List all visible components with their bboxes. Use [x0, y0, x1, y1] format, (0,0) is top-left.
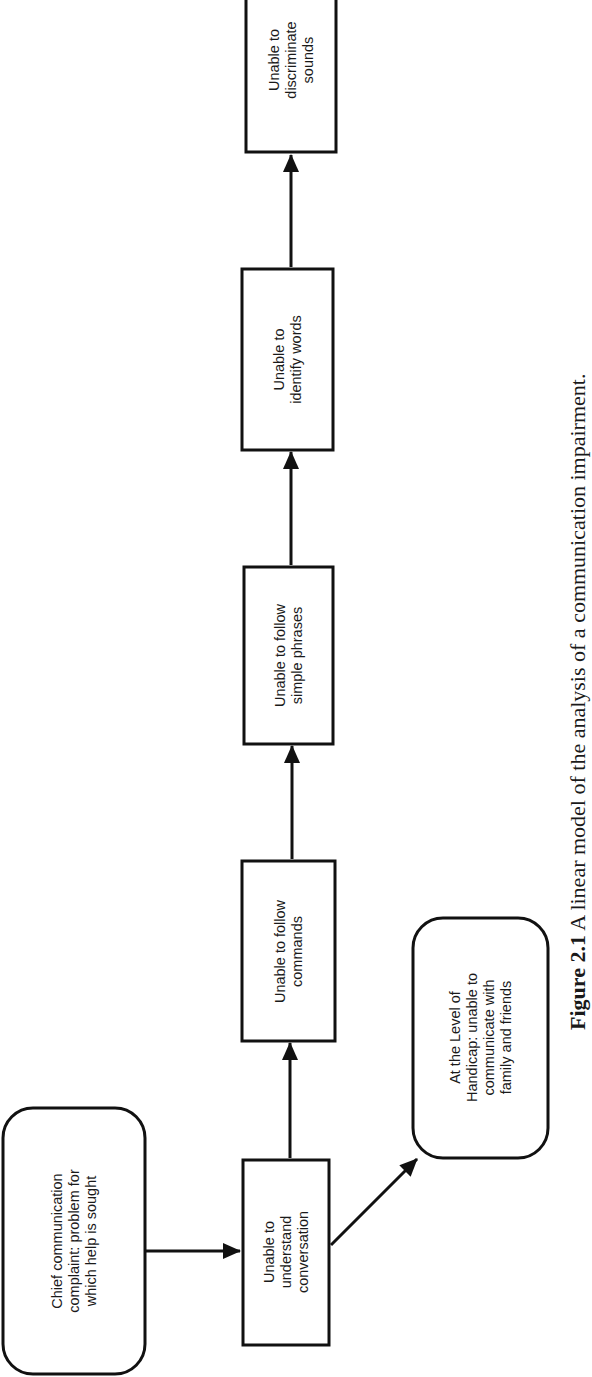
node-sounds-label: Unable to discriminate sounds	[246, 0, 336, 125]
node-commands-label: Unable to follow commands	[242, 862, 335, 1042]
node-handicap-label: At the Level of Handicap: unable to comm…	[413, 918, 548, 1158]
figure-caption-text: A linear model of the analysis of a comm…	[565, 374, 590, 931]
node-conversation-label: Unable to understand conversation	[243, 1159, 329, 1345]
node-chief-label: Chief communication complaint: problem f…	[3, 1108, 145, 1374]
node-phrases-label: Unable to follow simple phrases	[244, 567, 333, 744]
figure-caption: Figure 2.1 A linear model of the analysi…	[566, 374, 590, 1030]
figure-number: Figure 2.1	[565, 935, 590, 1030]
arrow-conversation-to-handicap	[331, 1159, 417, 1245]
node-words-label: Unable to identify words	[242, 269, 333, 450]
